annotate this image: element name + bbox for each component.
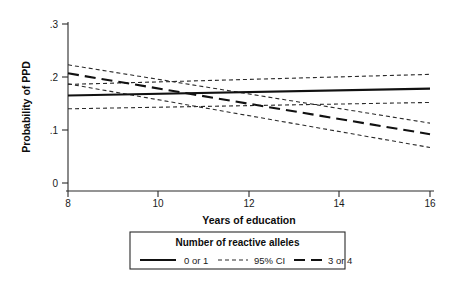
y-tick-label-0: 0 (52, 178, 58, 189)
legend-label-0-or-1: 0 or 1 (184, 255, 208, 266)
plot-area (68, 24, 430, 191)
x-tick-label-3: 14 (333, 198, 345, 209)
x-tick-label-4: 16 (424, 198, 436, 209)
x-tick-label-2: 12 (243, 198, 255, 209)
legend-label-3-or-4: 3 or 4 (328, 255, 352, 266)
x-tick-label-1: 10 (152, 198, 164, 209)
y-axis-title: Probability of PPD (20, 61, 32, 153)
y-tick-label-3: .3 (50, 19, 59, 30)
y-tick-label-2: .2 (50, 72, 59, 83)
legend-label-95-ci: 95% CI (254, 255, 285, 266)
legend: Number of reactive alleles 0 or 1 95% CI… (130, 232, 352, 269)
ppd-education-chart: 0 .1 .2 .3 Probability of PPD 8 10 12 14… (0, 0, 456, 282)
legend-title: Number of reactive alleles (176, 237, 300, 248)
x-axis-title: Years of education (202, 214, 295, 226)
x-tick-label-0: 8 (65, 198, 71, 209)
y-tick-label-1: .1 (50, 125, 59, 136)
